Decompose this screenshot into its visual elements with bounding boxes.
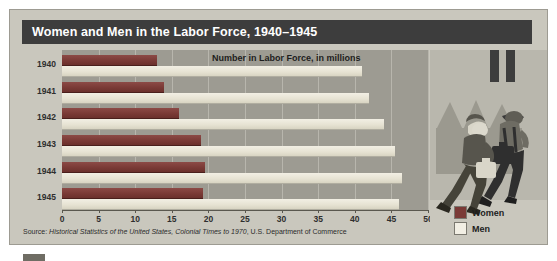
x-tick-50 [428,210,429,213]
source-title: Historical Statistics of the United Stat… [49,228,247,235]
bar-women-1941 [62,82,164,93]
chart-title-bar: Women and Men in the Labor Force, 1940–1… [22,20,532,44]
legend-label-women: Women [472,208,504,218]
bar-women-1945 [62,188,203,199]
bottom-cutoff-swatch [23,254,45,261]
gridline-50 [428,50,429,210]
chart-legend: WomenMen [454,206,548,238]
x-tick-label-25: 25 [240,214,249,224]
bar-group-1941 [62,77,428,104]
x-tick-35 [318,210,319,213]
x-tick-45 [391,210,392,213]
x-tick-label-15: 15 [167,214,176,224]
x-tick-0 [62,210,63,213]
x-tick-15 [172,210,173,213]
legend-item-women: Women [454,206,548,219]
illustration-panel [430,50,548,230]
x-tick-10 [135,210,136,213]
bottom-cutoff-strip [9,250,129,261]
source-suffix: , U.S. Department of Commerce [247,228,347,235]
x-tick-label-40: 40 [350,214,359,224]
screenshot-root: Women and Men in the Labor Force, 1940–1… [0,0,557,261]
y-axis-label-1944: 1944 [22,166,56,176]
y-axis-labels: 194019411942194319441945 [22,50,60,210]
legend-swatch-women [454,206,467,219]
chart-annotation: Number in Labor Force, in millions [212,53,361,63]
legend-label-men: Men [472,224,490,234]
bar-men-1945 [62,199,399,210]
legend-swatch-men [454,222,467,235]
source-prefix: Source: [23,228,49,235]
source-citation: Source: Historical Statistics of the Uni… [23,228,443,235]
x-tick-30 [282,210,283,213]
bar-group-1945 [62,183,428,210]
bar-group-1944 [62,157,428,184]
bar-men-1943 [62,146,395,157]
y-axis-label-1942: 1942 [22,112,56,122]
bar-men-1941 [62,93,369,104]
bar-women-1940 [62,55,157,66]
x-tick-label-10: 10 [130,214,139,224]
bar-men-1944 [62,173,402,184]
x-tick-20 [208,210,209,213]
y-axis-label-1940: 1940 [22,59,56,69]
bar-women-1942 [62,108,179,119]
x-tick-label-20: 20 [204,214,213,224]
chart-figure: Women and Men in the Labor Force, 1940–1… [9,9,548,245]
plot-area: Number in Labor Force, in millions [62,50,428,210]
y-axis-label-1941: 1941 [22,86,56,96]
bar-women-1944 [62,162,205,173]
x-tick-25 [245,210,246,213]
x-tick-label-35: 35 [313,214,322,224]
x-tick-label-0: 0 [60,214,65,224]
bar-women-1943 [62,135,201,146]
x-tick-40 [355,210,356,213]
bar-men-1940 [62,66,362,77]
y-axis-label-1945: 1945 [22,192,56,202]
x-tick-5 [99,210,100,213]
plot-area-wrapper: 194019411942194319441945 Number in Labor… [22,50,428,230]
x-tick-label-45: 45 [387,214,396,224]
page-title: Women and Men in the Labor Force, 1940–1… [22,25,317,39]
x-tick-label-30: 30 [277,214,286,224]
bar-men-1942 [62,119,384,130]
factory-workers-illustration [430,50,548,230]
bar-group-1943 [62,130,428,157]
y-axis-label-1943: 1943 [22,139,56,149]
x-tick-label-5: 5 [96,214,101,224]
legend-item-men: Men [454,222,548,235]
bar-group-1942 [62,103,428,130]
